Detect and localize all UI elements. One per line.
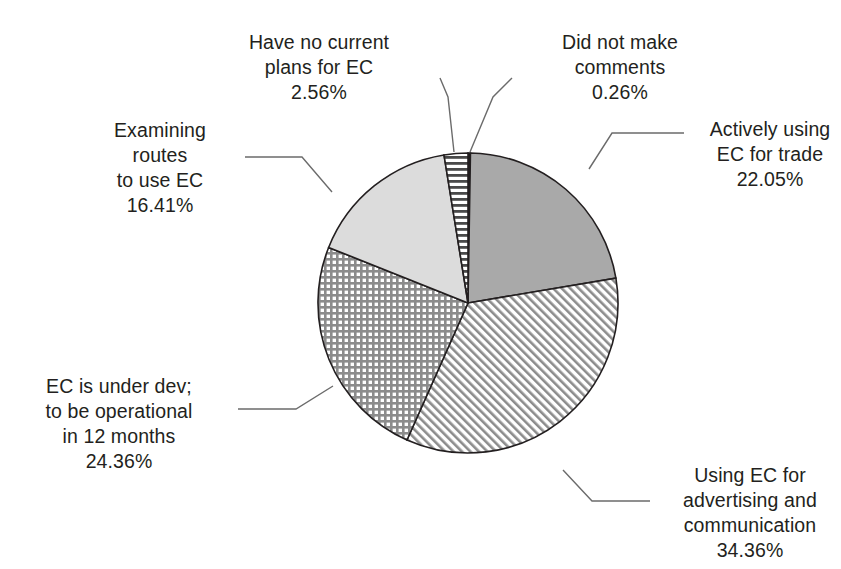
pie-label-using-ec-for-advertising: Using EC for advertising and communicati… — [655, 463, 841, 563]
pie-label-actively-using-ec-for-trade: Actively using EC for trade 22.05% — [690, 117, 841, 192]
pie-label-have-no-current-plans-for-ec: Have no current plans for EC 2.56% — [204, 30, 434, 105]
leader-line-have-no-current-plans — [440, 78, 454, 152]
leader-line-ec-under-dev — [238, 386, 333, 409]
pie-slices — [318, 153, 618, 453]
pie-label-did-not-make-comments: Did not make comments 0.26% — [520, 30, 720, 105]
leader-line-actively-using — [589, 133, 684, 169]
leader-line-using-ec-advertising — [563, 470, 650, 501]
pie-slice-actively-using-ec-for-trade[interactable] — [468, 153, 616, 303]
pie-label-ec-is-under-development: EC is under dev; to be operational in 12… — [4, 374, 234, 474]
pie-label-examining-routes-to-use-ec: Examining routes to use EC 16.41% — [70, 118, 250, 218]
leader-line-did-not-make-comments — [470, 78, 512, 152]
leader-line-examining-routes — [245, 157, 332, 192]
pie-chart: Have no current plans for EC 2.56% Did n… — [0, 0, 841, 569]
